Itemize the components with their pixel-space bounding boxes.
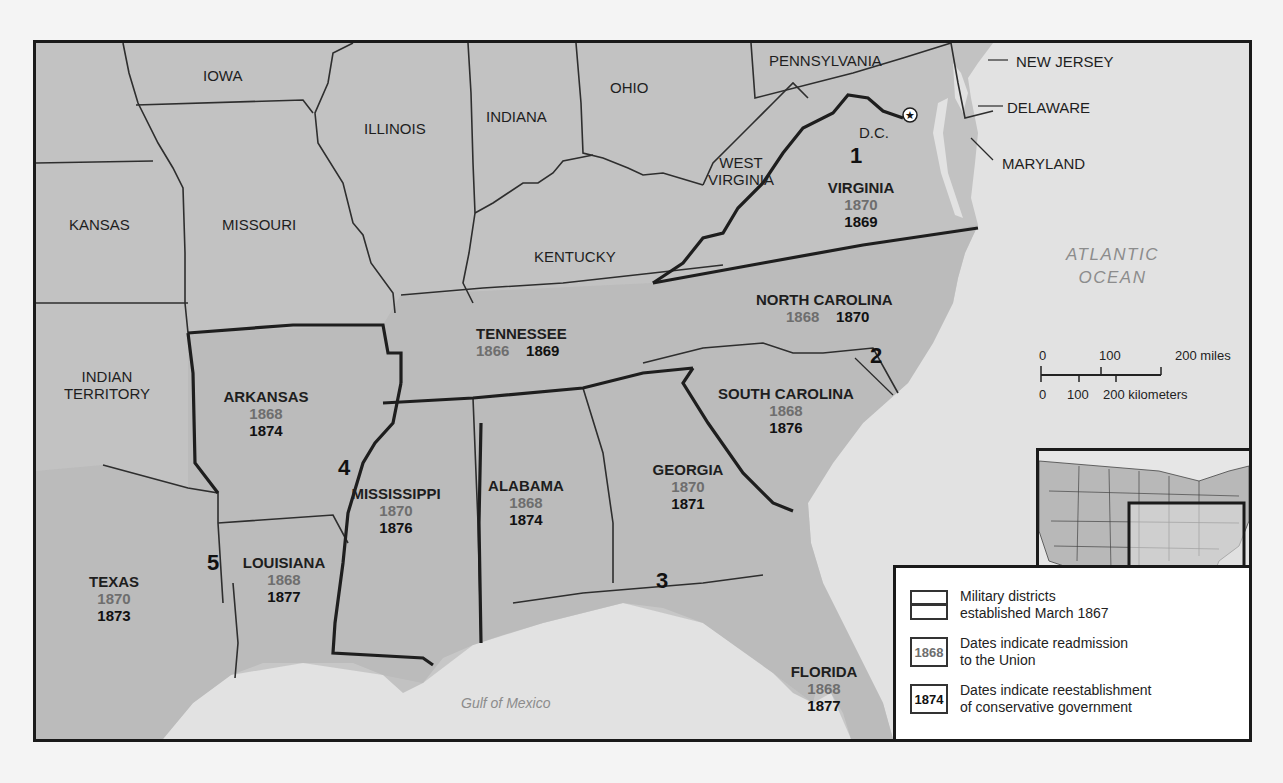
conservative-year: 1877 xyxy=(791,697,858,714)
readmission-year: 1868 xyxy=(786,308,819,325)
readmission-year: 1868 xyxy=(718,402,854,419)
conservative-swatch: 1874 xyxy=(910,684,948,714)
readmission-swatch: 1868 xyxy=(910,637,948,667)
state-north-carolina: NORTH CAROLINA 1868 1870 xyxy=(756,291,893,325)
legend-item-conservative: 1874 Dates indicate reestablishmentof co… xyxy=(910,682,1151,716)
conservative-year: 1874 xyxy=(223,422,308,439)
label-new-jersey: NEW JERSEY xyxy=(1016,53,1114,70)
conservative-year: 1873 xyxy=(89,607,139,624)
label-kentucky: KENTUCKY xyxy=(534,248,616,265)
district-number-1: 1 xyxy=(850,143,862,169)
district-number-2: 2 xyxy=(870,343,882,369)
label-atlantic-ocean: ATLANTIC OCEAN xyxy=(1066,243,1159,289)
district-number-4: 4 xyxy=(338,455,350,481)
label-pennsylvania: PENNSYLVANIA xyxy=(769,52,882,69)
label-dc: D.C. xyxy=(859,124,889,141)
label-indian-territory: INDIANTERRITORY xyxy=(64,368,150,402)
label-ohio: OHIO xyxy=(610,79,648,96)
scale-bar: 0 100 200 miles 0 100 200 kilometers xyxy=(1039,348,1249,438)
state-mississippi: MISSISSIPPI 1870 1876 xyxy=(351,485,440,536)
state-virginia: VIRGINIA 1870 1869 xyxy=(828,179,895,230)
readmission-year: 1868 xyxy=(488,494,564,511)
state-louisiana: LOUISIANA 1868 1877 xyxy=(243,554,326,605)
label-west-virginia: WESTVIRGINIA xyxy=(708,154,774,188)
label-delaware: DELAWARE xyxy=(1007,99,1090,116)
conservative-year: 1876 xyxy=(718,419,854,436)
conservative-year: 1874 xyxy=(488,511,564,528)
state-florida: FLORIDA 1868 1877 xyxy=(791,663,858,714)
conservative-year: 1869 xyxy=(526,342,559,359)
conservative-year: 1877 xyxy=(243,588,326,605)
state-south-carolina: SOUTH CAROLINA 1868 1876 xyxy=(718,385,854,436)
state-alabama: ALABAMA 1868 1874 xyxy=(488,477,564,528)
readmission-year: 1868 xyxy=(223,405,308,422)
inset-highlight-box xyxy=(1129,503,1244,573)
readmission-year: 1866 xyxy=(476,342,509,359)
readmission-year: 1868 xyxy=(791,680,858,697)
readmission-year: 1868 xyxy=(243,571,326,588)
label-indiana: INDIANA xyxy=(486,108,547,125)
state-texas: TEXAS 1870 1873 xyxy=(89,573,139,624)
conservative-year: 1870 xyxy=(836,308,869,325)
readmission-year: 1870 xyxy=(351,502,440,519)
state-tennessee: TENNESSEE 1866 1869 xyxy=(476,325,567,359)
legend: Military districtsestablished March 1867… xyxy=(893,565,1252,742)
conservative-year: 1871 xyxy=(653,495,724,512)
label-kansas: KANSAS xyxy=(69,216,130,233)
legend-item-military-districts: Military districtsestablished March 1867 xyxy=(910,588,1109,622)
label-maryland: MARYLAND xyxy=(1002,155,1085,172)
legend-item-readmission: 1868 Dates indicate readmissionto the Un… xyxy=(910,635,1128,669)
conservative-year: 1869 xyxy=(828,213,895,230)
label-gulf-of-mexico: Gulf of Mexico xyxy=(461,695,550,711)
readmission-year: 1870 xyxy=(653,478,724,495)
state-arkansas: ARKANSAS 1868 1874 xyxy=(223,388,308,439)
district-number-3: 3 xyxy=(656,568,668,594)
label-illinois: ILLINOIS xyxy=(364,120,426,137)
district-line-swatch xyxy=(910,590,948,620)
conservative-year: 1876 xyxy=(351,519,440,536)
readmission-year: 1870 xyxy=(828,196,895,213)
state-georgia: GEORGIA 1870 1871 xyxy=(653,461,724,512)
label-iowa: IOWA xyxy=(203,67,242,84)
label-missouri: MISSOURI xyxy=(222,216,296,233)
readmission-year: 1870 xyxy=(89,590,139,607)
dc-star-icon: ★ xyxy=(905,109,915,121)
district-number-5: 5 xyxy=(207,550,219,576)
reconstruction-map: ★ IOWA ILLINOIS INDIANA OHIO PENNSYLVANI… xyxy=(33,40,1252,742)
